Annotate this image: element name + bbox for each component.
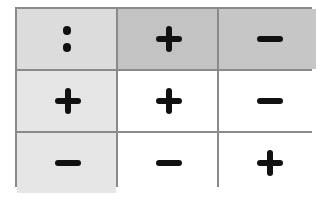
sign-rule-table: :+−++−−−+ [15,7,312,187]
row-header-cell: − [17,133,116,193]
corner-cell: : [17,9,116,69]
minus-icon [153,148,183,178]
minus-icon [52,148,82,178]
minus-icon [254,24,284,54]
result-cell: + [118,71,217,131]
row-header-cell: + [17,71,116,131]
result-cell: + [219,133,316,193]
result-cell: − [118,133,217,193]
plus-icon [254,148,284,178]
minus-icon [254,86,284,116]
plus-icon [52,86,82,116]
plus-icon [153,86,183,116]
result-cell: − [219,71,316,131]
header-cell: − [219,9,316,69]
header-cell: + [118,9,217,69]
division-colon-icon [52,24,82,54]
plus-icon [153,24,183,54]
